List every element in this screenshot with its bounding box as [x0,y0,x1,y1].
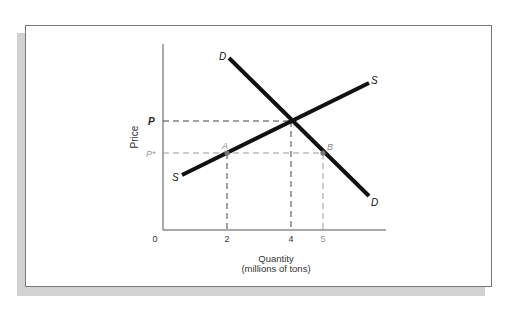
x-tick-2: 2 [224,234,229,244]
x-axis-subtitle: (millions of tons) [241,263,310,274]
point-b-marker [320,150,325,155]
demand-curve [229,58,369,196]
supply-start-label: S [172,172,179,183]
demand-start-label: D [219,51,226,62]
y-tick-p: P [148,116,155,127]
demand-end-label: D [371,197,378,208]
point-a-marker [224,150,229,155]
x-tick-0: 0 [152,234,157,244]
supply-demand-chart: S S D D A B P P* Price 0 2 4 5 Quantity … [0,0,512,311]
y-tick-p-star: P* [146,149,156,159]
point-b-label: B [327,142,333,152]
supply-end-label: S [371,75,378,86]
point-a-label: A [221,141,228,151]
supply-curve [182,83,369,175]
x-tick-5: 5 [320,234,325,244]
x-tick-4: 4 [288,234,293,244]
y-axis-title: Price [129,125,140,148]
